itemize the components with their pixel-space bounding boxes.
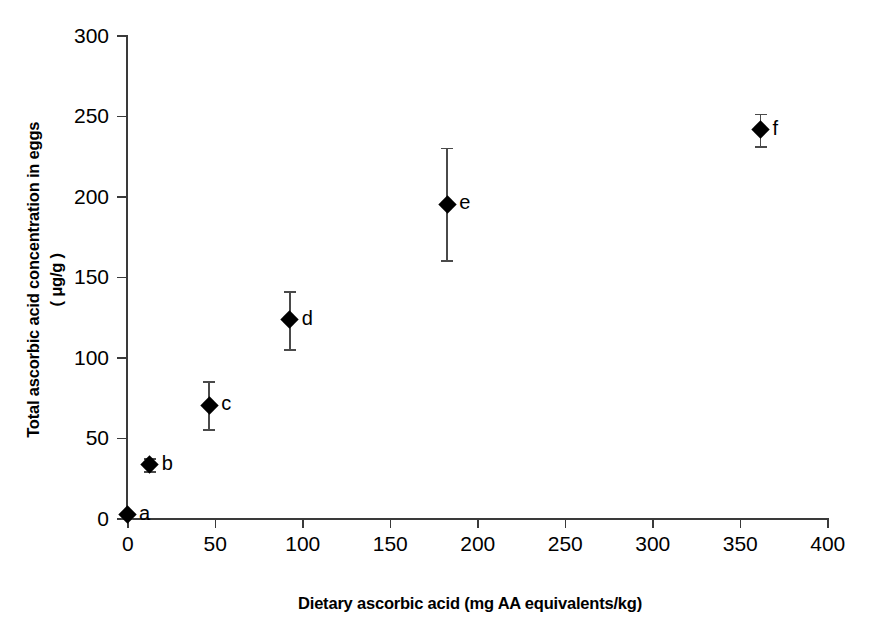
x-tick-label: 250 — [548, 532, 583, 556]
x-tick-label: 400 — [810, 532, 845, 556]
x-tick-label: 350 — [723, 532, 758, 556]
error-bar-cap-lower — [203, 429, 215, 431]
diamond-marker-icon — [438, 195, 456, 213]
error-bar-cap-lower — [755, 146, 767, 148]
y-tick-label: 200 — [74, 185, 109, 209]
diamond-marker-icon — [281, 311, 299, 329]
x-tick: 400 — [827, 518, 829, 528]
y-tick-label: 100 — [74, 346, 109, 370]
diamond-marker-icon — [118, 506, 136, 524]
y-tick: 150 — [117, 277, 127, 279]
y-tick-label: 0 — [97, 507, 109, 531]
error-bar-cap-upper — [755, 114, 767, 116]
y-tick-label: 50 — [86, 426, 109, 450]
x-axis-title: Dietary ascorbic acid (mg AA equivalents… — [90, 594, 850, 613]
y-axis-title-line1: Total ascorbic acid concentration in egg… — [24, 122, 42, 438]
error-bar-cap-lower — [441, 260, 453, 262]
x-tick: 300 — [652, 518, 654, 528]
y-tick-label: 150 — [74, 265, 109, 289]
y-tick: 300 — [117, 35, 127, 37]
y-axis-title-line2: ( μg/g ) — [45, 122, 68, 438]
y-tick: 50 — [117, 438, 127, 440]
x-tick: 350 — [740, 518, 742, 528]
x-tick: 100 — [302, 518, 304, 528]
x-tick-label: 150 — [373, 532, 408, 556]
data-point-label-a: a — [139, 502, 150, 525]
x-tick: 50 — [215, 518, 217, 528]
x-tick: 250 — [565, 518, 567, 528]
y-tick: 250 — [117, 116, 127, 118]
scatter-chart-figure: Total ascorbic acid concentration in egg… — [0, 0, 871, 641]
x-tick: 200 — [477, 518, 479, 528]
x-tick: 150 — [390, 518, 392, 528]
x-tick-label: 0 — [122, 532, 134, 556]
y-tick: 100 — [117, 357, 127, 359]
data-point-label-c: c — [221, 392, 231, 415]
data-point-label-d: d — [302, 307, 313, 330]
diamond-marker-icon — [200, 396, 218, 414]
y-tick-label: 300 — [74, 24, 109, 48]
diamond-marker-icon — [751, 121, 769, 139]
data-point-label-e: e — [459, 191, 470, 214]
x-tick-label: 300 — [635, 532, 670, 556]
data-point-label-b: b — [162, 452, 173, 475]
x-tick-label: 50 — [204, 532, 227, 556]
plot-area: 050100150200250300 050100150200250300350… — [127, 35, 827, 518]
y-tick: 200 — [117, 196, 127, 198]
x-tick-label: 100 — [285, 532, 320, 556]
error-bar-cap-upper — [441, 148, 453, 150]
y-tick-label: 250 — [74, 104, 109, 128]
error-bar-cap-lower — [284, 349, 296, 351]
x-tick-label: 200 — [460, 532, 495, 556]
error-bar-cap-upper — [284, 291, 296, 293]
data-point-label-f: f — [773, 117, 779, 140]
error-bar-cap-upper — [203, 381, 215, 383]
